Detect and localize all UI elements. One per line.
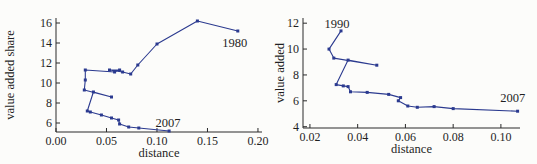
data-point xyxy=(387,93,390,96)
data-point xyxy=(332,57,335,60)
x-tick-label: 0.00 xyxy=(46,134,67,148)
data-point xyxy=(397,99,400,102)
data-point xyxy=(433,105,436,108)
data-point xyxy=(156,43,159,46)
y-axis-title: value added xyxy=(273,42,287,103)
y-tick-label: 14 xyxy=(40,36,52,50)
y-tick-label: 6 xyxy=(46,116,52,130)
data-point xyxy=(84,79,87,82)
data-point xyxy=(399,96,402,99)
data-point xyxy=(349,90,352,93)
data-point xyxy=(137,127,140,130)
data-point xyxy=(83,89,86,92)
x-axis-title: distance xyxy=(139,146,180,160)
data-point xyxy=(136,64,139,67)
trajectory-line xyxy=(329,31,518,111)
data-point xyxy=(86,110,89,113)
panel-left: 0.000.050.100.150.206810121416distanceva… xyxy=(0,0,269,164)
data-point xyxy=(121,71,124,74)
data-point xyxy=(516,110,519,113)
y-tick-label: 8 xyxy=(46,96,52,110)
data-point xyxy=(110,96,113,99)
data-point xyxy=(416,106,419,109)
data-point xyxy=(118,123,121,126)
trajectory-line xyxy=(84,21,238,131)
data-point xyxy=(335,83,338,86)
x-tick-label: 0.15 xyxy=(197,134,218,148)
data-point xyxy=(100,114,103,117)
data-point xyxy=(236,30,239,33)
x-tick-label: 0.08 xyxy=(443,130,464,144)
data-point xyxy=(366,91,369,94)
y-tick-label: 8 xyxy=(293,68,299,82)
x-axis-title: distance xyxy=(391,142,432,156)
chart-value-added-share-vs-distance: 0.000.050.100.150.206810121416distanceva… xyxy=(0,0,269,164)
axes-spines xyxy=(303,18,520,128)
data-point xyxy=(196,20,199,23)
data-point xyxy=(347,85,350,88)
x-tick-label: 0.02 xyxy=(299,130,320,144)
panel-right: 0.020.040.060.080.104681012distancevalue… xyxy=(269,0,537,164)
data-point xyxy=(452,107,455,110)
x-tick-label: 0.04 xyxy=(347,130,368,144)
y-tick-label: 12 xyxy=(40,56,52,70)
data-point xyxy=(127,126,130,129)
x-tick-label: 0.10 xyxy=(490,130,511,144)
y-tick-label: 10 xyxy=(40,76,52,90)
y-axis-title: value added share xyxy=(3,30,17,120)
x-tick-label: 0.20 xyxy=(247,134,268,148)
year-annotation: 1990 xyxy=(324,17,349,31)
y-tick-label: 6 xyxy=(293,94,299,108)
data-point xyxy=(110,117,113,120)
y-tick-label: 12 xyxy=(287,16,299,30)
y-tick-label: 16 xyxy=(40,16,52,30)
data-point xyxy=(328,48,331,51)
data-point xyxy=(108,69,111,72)
data-point xyxy=(113,71,116,74)
data-point xyxy=(375,64,378,67)
data-point xyxy=(118,69,121,72)
data-point xyxy=(117,119,120,122)
year-annotation: 2007 xyxy=(500,91,525,105)
data-point xyxy=(92,91,95,94)
chart-value-added-vs-distance: 0.020.040.060.080.104681012distancevalue… xyxy=(269,0,537,164)
data-point xyxy=(89,111,92,114)
year-annotation: 2007 xyxy=(156,116,181,130)
data-point xyxy=(129,73,132,76)
data-point xyxy=(347,59,350,62)
data-point xyxy=(406,105,409,108)
figure-two-panel-trajectory-charts: 0.000.050.100.150.206810121416distanceva… xyxy=(0,0,537,164)
y-tick-label: 10 xyxy=(287,42,299,56)
y-tick-label: 4 xyxy=(293,120,299,134)
year-annotation: 1980 xyxy=(222,36,247,50)
x-tick-label: 0.05 xyxy=(96,134,117,148)
data-point xyxy=(84,69,87,72)
data-point xyxy=(342,84,345,87)
